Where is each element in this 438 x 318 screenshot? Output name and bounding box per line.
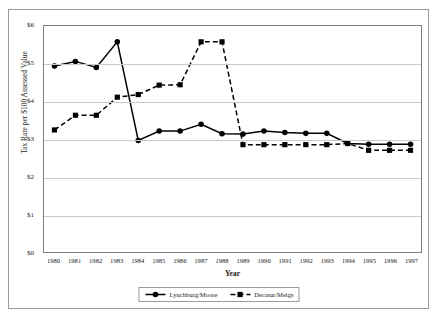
gridline xyxy=(44,216,421,217)
plot-area xyxy=(43,25,422,253)
x-axis-tick-label: 1988 xyxy=(215,256,228,265)
x-axis-tick-label: 1983 xyxy=(110,256,123,265)
y-axis-tick-label: $4 xyxy=(27,97,34,105)
data-point-circle xyxy=(115,39,121,45)
data-point-circle xyxy=(303,131,309,137)
x-axis-tick-label: 1993 xyxy=(321,256,334,265)
data-point-square xyxy=(115,95,120,100)
series-1 xyxy=(52,39,414,147)
data-point-circle xyxy=(366,141,372,147)
x-axis-tick-label: 1980 xyxy=(47,256,60,265)
x-axis-tick-label: 1989 xyxy=(236,256,249,265)
data-point-square xyxy=(52,127,57,132)
legend-marker-circle-icon xyxy=(144,290,166,299)
legend-label: Lynchburg/Moore xyxy=(169,291,217,299)
legend-item[interactable]: Lynchburg/Moore xyxy=(144,290,217,299)
legend-item[interactable]: Decatur/Meigs xyxy=(229,290,293,299)
data-point-square xyxy=(157,83,162,88)
legend-label: Decatur/Meigs xyxy=(254,291,293,299)
x-axis-tick-labels: 1980198119821983198419851986198719881989… xyxy=(43,256,422,270)
legend-marker-square-icon xyxy=(229,290,251,299)
gridline xyxy=(44,102,421,103)
y-axis-tick-labels: $0$1$2$3$4$5$6 xyxy=(0,25,39,253)
data-point-circle xyxy=(198,122,204,128)
data-point-circle xyxy=(94,65,100,71)
data-point-square xyxy=(324,142,329,147)
x-axis-tick-label: 1995 xyxy=(363,256,376,265)
data-point-square xyxy=(199,39,204,44)
data-point-square xyxy=(345,141,350,146)
y-axis-tick-label: $1 xyxy=(27,211,34,219)
data-point-circle xyxy=(282,130,288,136)
data-point-square xyxy=(240,142,245,147)
gridline xyxy=(44,140,421,141)
x-axis-tick-label: 1992 xyxy=(300,256,313,265)
data-point-square xyxy=(366,148,371,153)
data-point-circle xyxy=(408,141,414,147)
x-axis-title: Year xyxy=(43,269,422,279)
x-axis-tick-label: 1986 xyxy=(173,256,186,265)
data-point-circle xyxy=(324,131,330,137)
x-axis-tick-label: 1984 xyxy=(131,256,144,265)
x-axis-tick-label: 1997 xyxy=(405,256,418,265)
data-point-square xyxy=(261,142,266,147)
y-axis-tick-label: $6 xyxy=(27,21,34,29)
data-point-square xyxy=(73,113,78,118)
x-axis-tick-label: 1981 xyxy=(68,256,81,265)
data-point-square xyxy=(303,142,308,147)
x-axis-tick-label: 1985 xyxy=(152,256,165,265)
data-point-square xyxy=(219,39,224,44)
data-point-circle xyxy=(156,128,162,134)
data-point-square xyxy=(94,113,99,118)
data-point-circle xyxy=(219,131,225,137)
chart-legend: Lynchburg/MooreDecatur/Meigs xyxy=(138,287,299,302)
x-axis-tick-label: 1994 xyxy=(342,256,355,265)
x-axis-tick-label: 1990 xyxy=(257,256,270,265)
y-axis-tick-label: $3 xyxy=(27,135,34,143)
data-point-circle xyxy=(177,128,183,134)
gridline xyxy=(44,64,421,65)
data-point-circle xyxy=(261,128,267,134)
x-axis-tick-label: 1991 xyxy=(279,256,292,265)
gridline xyxy=(44,178,421,179)
x-axis-tick-label: 1982 xyxy=(89,256,102,265)
y-axis-tick-label: $5 xyxy=(27,59,34,67)
data-point-circle xyxy=(387,141,393,147)
y-axis-tick-label: $2 xyxy=(27,173,34,181)
chart-svg xyxy=(44,26,421,252)
series-line xyxy=(54,42,410,144)
data-point-square xyxy=(408,148,413,153)
data-point-square xyxy=(387,148,392,153)
data-point-square xyxy=(178,82,183,87)
data-point-square xyxy=(136,92,141,97)
y-axis-tick-label: $0 xyxy=(27,249,34,257)
figure-container: Tax Rate per $100 Assessed Value $0$1$2$… xyxy=(0,0,438,318)
x-axis-tick-label: 1996 xyxy=(384,256,397,265)
x-axis-tick-label: 1987 xyxy=(194,256,207,265)
data-point-square xyxy=(282,142,287,147)
